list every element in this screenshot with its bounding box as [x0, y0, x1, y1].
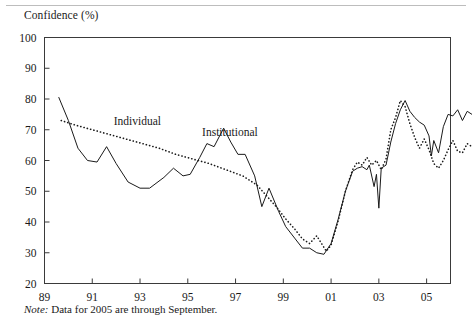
- x-axis-tick-label: 93: [134, 291, 146, 303]
- y-axis-tick-label: 60: [25, 155, 37, 167]
- x-axis-tick-label: 97: [230, 291, 242, 303]
- x-axis-tick-label: 91: [87, 291, 99, 303]
- x-axis-tick-label: 05: [421, 291, 433, 303]
- series-annotation: Institutional: [202, 126, 258, 138]
- y-axis-tick-label: 50: [25, 185, 37, 197]
- figure-container: Confidence (%) 2030405060708090100899193…: [0, 0, 472, 329]
- x-axis-tick-label: 01: [325, 291, 337, 303]
- y-axis-tick-label: 40: [25, 216, 37, 228]
- x-axis-tick-label: 99: [278, 291, 290, 303]
- y-axis-tick-label: 30: [25, 247, 37, 259]
- figure-note: Note: Data for 2005 are through Septembe…: [24, 303, 217, 315]
- note-text: Data for 2005 are through September.: [48, 303, 217, 315]
- y-axis-tick-label: 100: [19, 32, 37, 44]
- y-axis-tick-label: 20: [25, 278, 37, 290]
- series-annotation: Individual: [114, 115, 161, 127]
- x-axis-tick-label: 03: [373, 291, 385, 303]
- x-axis-tick-label: 89: [39, 291, 51, 303]
- line-chart-plot: 2030405060708090100899193959799010305Ind…: [0, 0, 472, 329]
- y-axis-tick-label: 80: [25, 93, 37, 105]
- x-axis-tick-label: 95: [182, 291, 194, 303]
- y-axis-tick-label: 90: [25, 62, 37, 74]
- y-axis-tick-label: 70: [25, 124, 37, 136]
- note-label: Note:: [24, 303, 48, 315]
